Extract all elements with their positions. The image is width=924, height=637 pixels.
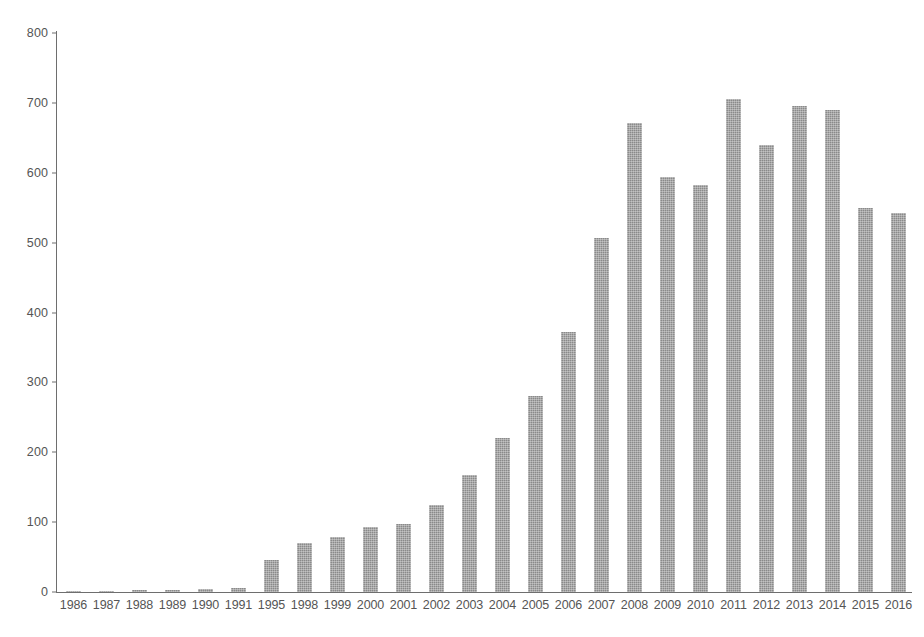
x-axis-tick-label: 1991 — [222, 598, 255, 612]
bar-slot — [717, 33, 750, 592]
bar-slot — [90, 33, 123, 592]
bar — [462, 475, 477, 592]
bar-slot — [255, 33, 288, 592]
x-axis-tick-label: 1988 — [123, 598, 156, 612]
bar-series — [57, 33, 912, 592]
bar-slot — [123, 33, 156, 592]
bar-slot — [783, 33, 816, 592]
bar — [231, 588, 246, 592]
bar-slot — [552, 33, 585, 592]
bar-slot — [387, 33, 420, 592]
bar — [165, 590, 180, 592]
y-axis-tick-label: 700 — [0, 96, 48, 110]
x-axis-tick-group: 1986198719881989199019911995199819992000… — [57, 598, 912, 620]
bar-slot — [420, 33, 453, 592]
bar — [330, 537, 345, 592]
bar-slot — [57, 33, 90, 592]
bar-slot — [882, 33, 915, 592]
bar — [429, 505, 444, 592]
bar — [561, 332, 576, 592]
x-axis-tick-label: 2006 — [552, 598, 585, 612]
x-axis-tick-label: 2010 — [684, 598, 717, 612]
bar — [759, 145, 774, 592]
x-axis-tick-label: 1989 — [156, 598, 189, 612]
bar-slot — [684, 33, 717, 592]
bar-slot — [453, 33, 486, 592]
bar-slot — [585, 33, 618, 592]
bar — [825, 110, 840, 592]
x-axis-tick-label: 2015 — [849, 598, 882, 612]
x-axis-tick-label: 1987 — [90, 598, 123, 612]
bar-slot — [486, 33, 519, 592]
bar-chart: 0100200300400500600700800 19861987198819… — [0, 0, 924, 637]
bar — [495, 438, 510, 592]
y-axis-tick-label: 800 — [0, 26, 48, 40]
bar-slot — [750, 33, 783, 592]
y-axis-tick-label: 500 — [0, 236, 48, 250]
x-axis-tick-label: 2005 — [519, 598, 552, 612]
x-axis-line — [56, 592, 912, 593]
x-axis-tick-label: 2000 — [354, 598, 387, 612]
x-axis-tick-label: 2011 — [717, 598, 750, 612]
y-axis-tick-label: 400 — [0, 306, 48, 320]
x-axis-tick-label: 2016 — [882, 598, 915, 612]
bar — [792, 106, 807, 592]
y-axis-tick-label: 100 — [0, 515, 48, 529]
bar — [132, 590, 147, 592]
bar-slot — [651, 33, 684, 592]
x-axis-tick-label: 1998 — [288, 598, 321, 612]
x-axis-tick-label: 1990 — [189, 598, 222, 612]
bar-slot — [354, 33, 387, 592]
bar — [396, 524, 411, 592]
y-axis-tick-label: 200 — [0, 445, 48, 459]
bar — [858, 208, 873, 592]
x-axis-tick-label: 2013 — [783, 598, 816, 612]
bar-slot — [288, 33, 321, 592]
bar — [891, 213, 906, 592]
x-axis-tick-label: 1986 — [57, 598, 90, 612]
bar — [528, 396, 543, 592]
y-axis-tick-label: 0 — [0, 585, 48, 599]
bar-slot — [222, 33, 255, 592]
x-axis-tick-label: 2001 — [387, 598, 420, 612]
bar — [297, 543, 312, 592]
x-axis-tick-label: 2008 — [618, 598, 651, 612]
x-axis-tick-label: 1995 — [255, 598, 288, 612]
bar — [726, 99, 741, 592]
bar-slot — [156, 33, 189, 592]
y-axis-tick-label: 600 — [0, 166, 48, 180]
x-axis-tick-label: 2007 — [585, 598, 618, 612]
bar-slot — [519, 33, 552, 592]
x-axis-tick-label: 2014 — [816, 598, 849, 612]
bar-slot — [321, 33, 354, 592]
bar-slot — [618, 33, 651, 592]
bar — [693, 185, 708, 592]
x-axis-tick-label: 2012 — [750, 598, 783, 612]
bar — [660, 177, 675, 592]
bar — [594, 238, 609, 592]
bar-slot — [816, 33, 849, 592]
bar-slot — [189, 33, 222, 592]
x-axis-tick-label: 2009 — [651, 598, 684, 612]
x-axis-tick-label: 2002 — [420, 598, 453, 612]
y-axis-tick-label: 300 — [0, 375, 48, 389]
x-axis-tick-label: 2003 — [453, 598, 486, 612]
bar — [363, 527, 378, 592]
bar — [99, 591, 114, 592]
x-axis-tick-label: 1999 — [321, 598, 354, 612]
bar — [66, 591, 81, 592]
bar — [198, 589, 213, 592]
bar — [264, 560, 279, 592]
bar-slot — [849, 33, 882, 592]
scan-speck — [729, 180, 731, 182]
bar — [627, 123, 642, 592]
x-axis-tick-label: 2004 — [486, 598, 519, 612]
